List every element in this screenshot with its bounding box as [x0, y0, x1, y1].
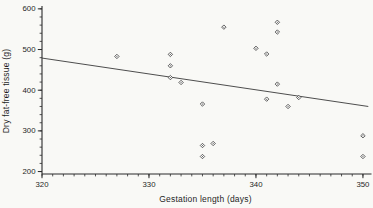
data-point-center-dot [298, 97, 299, 98]
data-point-center-dot [116, 56, 117, 57]
data-point-center-dot [362, 156, 363, 157]
y-tick-label: 300 [22, 126, 36, 135]
y-axis-label: Dry fat-free tissue (g) [1, 26, 11, 156]
data-point-center-dot [170, 65, 171, 66]
x-axis-label: Gestation length (days) [0, 194, 373, 204]
data-point-center-dot [277, 32, 278, 33]
data-point-center-dot [202, 156, 203, 157]
y-tick-label: 500 [22, 45, 36, 54]
data-point-center-dot [266, 54, 267, 55]
y-tick-label: 200 [22, 167, 36, 176]
x-tick-label: 330 [142, 180, 156, 189]
data-point-center-dot [202, 104, 203, 105]
scatter-plot-canvas: 320330340350200300400500600 [0, 0, 373, 208]
data-point-center-dot [277, 84, 278, 85]
data-point-center-dot [181, 82, 182, 83]
x-tick-label: 320 [35, 180, 49, 189]
data-point-center-dot [202, 145, 203, 146]
data-point-center-dot [223, 27, 224, 28]
data-point-center-dot [213, 143, 214, 144]
x-tick-label: 340 [249, 180, 263, 189]
data-point-center-dot [170, 54, 171, 55]
data-point-center-dot [277, 22, 278, 23]
x-tick-label: 350 [356, 180, 370, 189]
y-tick-label: 600 [22, 4, 36, 13]
data-point-center-dot [266, 99, 267, 100]
data-point-center-dot [362, 135, 363, 136]
data-point-center-dot [170, 77, 171, 78]
scatter-figure: 320330340350200300400500600 Gestation le… [0, 0, 373, 208]
trend-line [42, 58, 368, 106]
data-point-center-dot [288, 106, 289, 107]
data-point-center-dot [255, 48, 256, 49]
y-tick-label: 400 [22, 86, 36, 95]
